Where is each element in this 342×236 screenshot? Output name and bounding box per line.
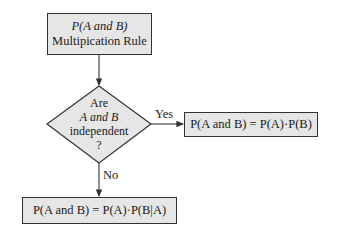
yes-label: Yes [155,107,173,122]
start-box: P(A and B) Multipication Rule [47,13,152,55]
decision-line-3: independent [59,124,139,138]
decision-line-4: ? [59,138,139,152]
decision-line-2: A and B [59,110,139,124]
start-box-title: P(A and B) [71,19,127,34]
yes-result-box: P(A and B) = P(A)·P(B) [184,112,318,137]
yes-result-formula: P(A and B) = P(A)·P(B) [190,117,312,132]
decision-text: Are A and B independent ? [59,96,139,152]
decision-line-1: Are [59,96,139,110]
no-result-formula: P(A and B) = P(A)·P(B|A) [33,203,166,218]
start-box-subtitle: Multipication Rule [52,34,147,49]
no-label: No [103,168,118,183]
no-result-box: P(A and B) = P(A)·P(B|A) [22,197,177,224]
